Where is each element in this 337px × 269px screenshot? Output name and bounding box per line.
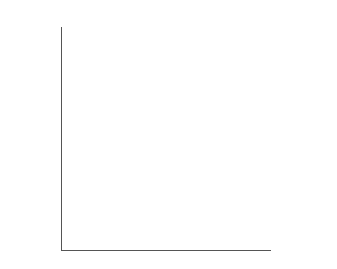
x-axis (61, 250, 271, 251)
y-axis (61, 27, 62, 250)
